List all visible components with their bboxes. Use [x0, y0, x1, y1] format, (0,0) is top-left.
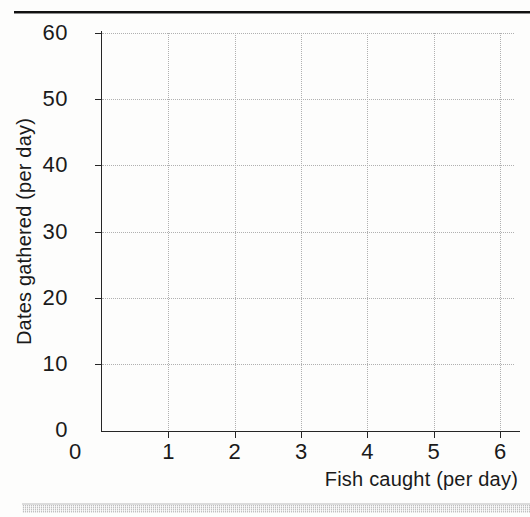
y-tick-label: 10	[0, 353, 82, 375]
bottom-scan-band	[22, 505, 530, 513]
y-tick-label: 0	[0, 419, 82, 441]
y-axis-tick	[95, 232, 102, 233]
x-axis-tick	[301, 431, 302, 438]
x-tick-label: 0	[69, 441, 81, 463]
gridline-vertical	[500, 33, 501, 432]
x-tick-label: 1	[162, 441, 174, 463]
x-tick-label: 6	[494, 441, 506, 463]
gridline-horizontal	[102, 33, 514, 34]
x-axis-tick	[235, 431, 236, 438]
y-axis-tick	[95, 165, 102, 166]
x-tick-label: 5	[428, 441, 440, 463]
chart-figure: Dates gathered (per day) 0102030405060 0…	[0, 0, 530, 517]
y-tick-label: 30	[0, 221, 82, 243]
gridline-vertical	[367, 33, 368, 432]
x-axis-tick	[434, 431, 435, 438]
top-divider-rule-shadow	[14, 13, 530, 14]
y-axis-tick	[95, 33, 102, 34]
gridline-horizontal	[102, 298, 514, 299]
gridline-horizontal	[102, 364, 514, 365]
y-tick-label: 50	[0, 88, 82, 110]
y-axis-tick	[95, 99, 102, 100]
gridline-horizontal	[102, 165, 514, 166]
plot-area	[102, 33, 500, 430]
gridline-vertical	[434, 33, 435, 432]
y-tick-label: 60	[0, 22, 82, 44]
x-axis-line	[101, 431, 520, 432]
y-axis-tick	[95, 364, 102, 365]
x-axis-tick	[168, 431, 169, 438]
gridline-vertical	[301, 33, 302, 432]
x-axis-title: Fish caught (per day)	[0, 468, 518, 491]
x-tick-label: 2	[229, 441, 241, 463]
x-tick-label: 4	[361, 441, 373, 463]
gridline-vertical	[168, 33, 169, 432]
y-tick-label: 40	[0, 154, 82, 176]
gridline-horizontal	[102, 232, 514, 233]
x-axis-tick	[367, 431, 368, 438]
x-axis-tick	[500, 431, 501, 438]
gridline-vertical	[235, 33, 236, 432]
y-axis-tick	[95, 298, 102, 299]
x-tick-label: 3	[295, 441, 307, 463]
gridline-horizontal	[102, 99, 514, 100]
y-tick-label: 20	[0, 287, 82, 309]
